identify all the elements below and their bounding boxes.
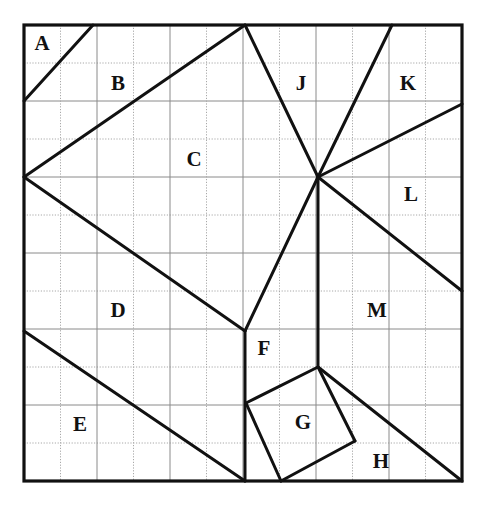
region-label-k: K: [400, 71, 417, 95]
region-label-g: G: [295, 410, 311, 434]
region-label-b: B: [111, 71, 125, 95]
region-label-f: F: [258, 336, 271, 360]
puzzle-figure: ABCDEFGHJKLM: [0, 0, 483, 512]
region-label-h: H: [373, 449, 389, 473]
region-label-a: A: [34, 31, 50, 55]
region-label-m: M: [367, 298, 387, 322]
region-label-c: C: [186, 147, 201, 171]
dissected-square-svg: ABCDEFGHJKLM: [0, 0, 483, 512]
region-label-e: E: [73, 412, 87, 436]
region-label-l: L: [404, 182, 418, 206]
region-label-j: J: [296, 71, 307, 95]
region-label-d: D: [110, 298, 125, 322]
